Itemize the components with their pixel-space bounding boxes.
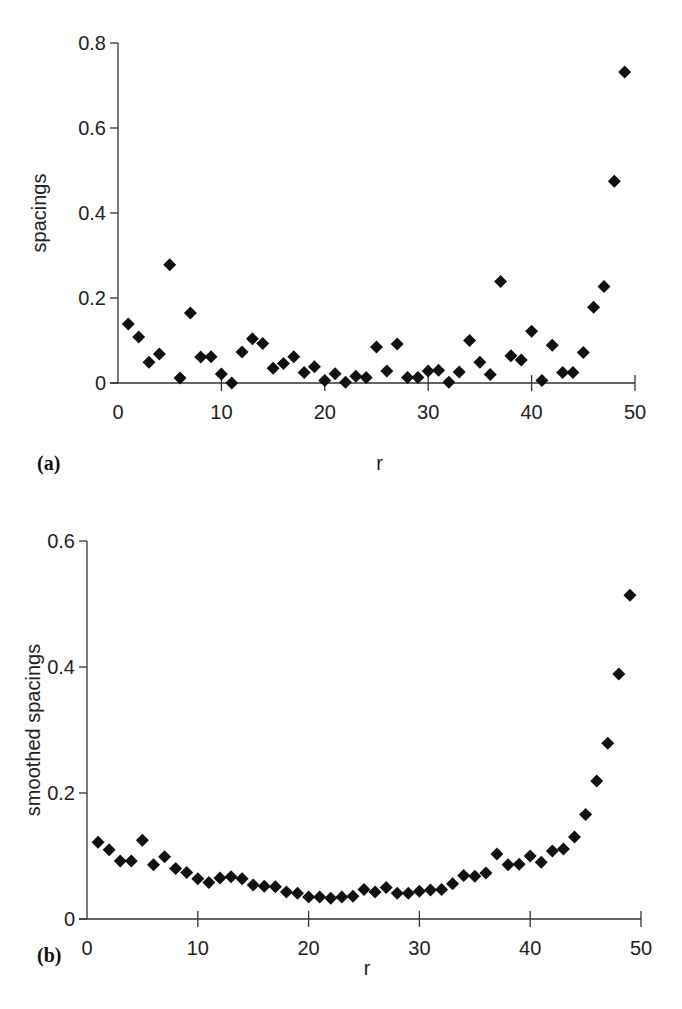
x-tick-label: 10 (210, 401, 232, 423)
data-point-diamond-icon (191, 872, 204, 885)
data-point-diamond-icon (103, 843, 116, 856)
data-point-diamond-icon (291, 887, 304, 900)
x-tick-label: 40 (520, 401, 542, 423)
data-point-diamond-icon (158, 850, 171, 863)
y-tick-label: 0.2 (47, 782, 75, 804)
data-point-diamond-icon (484, 368, 497, 381)
x-tick-label: 20 (297, 937, 319, 959)
data-point-diamond-icon (184, 306, 197, 319)
data-point-diamond-icon (568, 831, 581, 844)
data-point-diamond-icon (535, 374, 548, 387)
x-tick-label: 20 (314, 401, 336, 423)
data-point-diamond-icon (125, 855, 138, 868)
data-point-diamond-icon (494, 275, 507, 288)
data-point-diamond-icon (339, 376, 352, 389)
y-tick-label: 0.8 (78, 32, 106, 54)
data-point-diamond-icon (298, 366, 311, 379)
data-point-diamond-icon (225, 870, 238, 883)
x-tick-label: 0 (112, 401, 123, 423)
data-point-diamond-icon (590, 775, 603, 788)
x-tick-label: 30 (417, 401, 439, 423)
data-point-diamond-icon (122, 317, 135, 330)
data-point-diamond-icon (473, 356, 486, 369)
data-point-diamond-icon (132, 331, 145, 344)
data-point-diamond-icon (618, 65, 631, 78)
y-tick-label: 0 (64, 908, 75, 930)
data-point-diamond-icon (608, 175, 621, 188)
data-point-diamond-icon (579, 808, 592, 821)
data-point-diamond-icon (524, 850, 537, 863)
data-point-diamond-icon (587, 301, 600, 314)
x-tick-label: 0 (81, 937, 92, 959)
data-point-diamond-icon (597, 280, 610, 293)
data-point-diamond-icon (287, 350, 300, 363)
data-point-diamond-icon (424, 884, 437, 897)
y-tick-label: 0 (95, 372, 106, 394)
data-point-diamond-icon (612, 667, 625, 680)
x-tick-label: 10 (187, 937, 209, 959)
data-point-diamond-icon (147, 858, 160, 871)
data-point-diamond-icon (370, 340, 383, 353)
x-axis-label: r (364, 957, 371, 979)
y-axis-label: spacings (28, 174, 50, 253)
data-point-diamond-icon (269, 880, 282, 893)
data-point-diamond-icon (446, 877, 459, 890)
data-point-diamond-icon (380, 881, 393, 894)
data-point-diamond-icon (169, 862, 182, 875)
data-point-diamond-icon (601, 737, 614, 750)
data-point-diamond-icon (623, 589, 636, 602)
data-point-diamond-icon (457, 869, 470, 882)
data-point-diamond-icon (280, 885, 293, 898)
data-point-diamond-icon (247, 878, 260, 891)
y-axis-label: smoothed spacings (22, 644, 44, 816)
y-tick-label: 0.6 (47, 530, 75, 552)
data-point-diamond-icon (360, 371, 373, 384)
chart-panel-a: 00.20.40.60.801020304050rspacings(a) (28, 32, 646, 475)
data-point-diamond-icon (468, 870, 481, 883)
data-point-diamond-icon (180, 866, 193, 879)
chart-panel-b: 00.20.40.601020304050rsmoothed spacings(… (22, 530, 652, 979)
data-point-diamond-icon (442, 376, 455, 389)
data-point-diamond-icon (202, 876, 215, 889)
data-point-diamond-icon (566, 366, 579, 379)
figure-canvas: 00.20.40.60.801020304050rspacings(a) 00.… (0, 0, 682, 1009)
data-point-diamond-icon (153, 348, 166, 361)
data-point-diamond-icon (411, 371, 424, 384)
data-point-diamond-icon (391, 337, 404, 350)
data-point-diamond-icon (422, 365, 435, 378)
x-tick-label: 40 (519, 937, 541, 959)
data-point-diamond-icon (324, 892, 337, 905)
data-point-diamond-icon (114, 855, 127, 868)
data-point-diamond-icon (525, 325, 538, 338)
data-point-diamond-icon (463, 334, 476, 347)
data-point-diamond-icon (136, 834, 149, 847)
data-point-diamond-icon (479, 867, 492, 880)
data-point-diamond-icon (369, 885, 382, 898)
data-point-diamond-icon (453, 365, 466, 378)
data-point-diamond-icon (432, 364, 445, 377)
data-point-diamond-icon (335, 890, 348, 903)
data-point-diamond-icon (413, 885, 426, 898)
y-tick-label: 0.4 (47, 656, 75, 678)
data-point-diamond-icon (513, 858, 526, 871)
data-point-diamond-icon (577, 346, 590, 359)
data-point-diamond-icon (258, 880, 271, 893)
data-point-diamond-icon (546, 844, 559, 857)
data-point-diamond-icon (557, 843, 570, 856)
data-point-diamond-icon (318, 374, 331, 387)
data-point-diamond-icon (402, 887, 415, 900)
data-point-diamond-icon (329, 367, 342, 380)
data-point-diamond-icon (358, 883, 371, 896)
data-point-diamond-icon (213, 872, 226, 885)
x-tick-label: 30 (408, 937, 430, 959)
data-point-diamond-icon (236, 872, 249, 885)
data-point-diamond-icon (215, 368, 228, 381)
data-point-diamond-icon (225, 377, 238, 390)
data-point-diamond-icon (236, 345, 249, 358)
data-point-diamond-icon (435, 883, 448, 896)
y-tick-label: 0.4 (78, 202, 106, 224)
data-point-diamond-icon (546, 339, 559, 352)
figure: 00.20.40.60.801020304050rspacings(a) 00.… (0, 0, 682, 1009)
data-point-diamond-icon (205, 350, 218, 363)
data-point-diamond-icon (302, 890, 315, 903)
